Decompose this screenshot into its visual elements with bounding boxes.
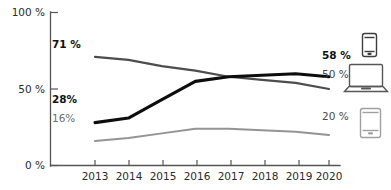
x-tick-label-2020: 2020 [316, 170, 343, 182]
x-tick-label-2018: 2018 [252, 170, 279, 182]
x-axis-tick-labels: 2013 2014 2015 2016 2017 2018 2019 2020 [82, 170, 343, 182]
y-axis-tick-labels: 100 % 50 % 0 % [12, 6, 45, 171]
chart-screenshot: 100 % 50 % 0 % 2013 2014 2015 2016 2017 … [0, 0, 391, 190]
x-tick-label-2019: 2019 [286, 170, 313, 182]
chart-axes [51, 12, 341, 166]
label-laptop-start: 71 % [52, 38, 81, 50]
series-line-tablet [95, 129, 329, 141]
y-tick-label-0: 0 % [25, 159, 45, 171]
chart-series-group [95, 57, 329, 141]
label-laptop-end: 50 % [322, 68, 349, 80]
tablet-icon [361, 109, 381, 138]
x-tick-label-2017: 2017 [218, 170, 245, 182]
legend-icons [345, 34, 388, 138]
label-smartphone-end: 58 % [322, 49, 351, 61]
label-smartphone-start: 28% [52, 93, 78, 105]
x-tick-label-2015: 2015 [150, 170, 177, 182]
label-tablet-start: 16% [52, 112, 75, 124]
smartphone-icon [363, 34, 377, 57]
label-tablet-end: 20 % [322, 110, 349, 122]
y-tick-label-50: 50 % [18, 83, 45, 95]
x-tick-label-2013: 2013 [82, 170, 109, 182]
y-tick-label-100: 100 % [12, 6, 45, 18]
x-tick-label-2014: 2014 [116, 170, 143, 182]
line-chart: 100 % 50 % 0 % 2013 2014 2015 2016 2017 … [0, 0, 391, 190]
x-tick-label-2016: 2016 [184, 170, 211, 182]
series-line-smartphone [95, 74, 329, 123]
laptop-icon [345, 65, 388, 92]
